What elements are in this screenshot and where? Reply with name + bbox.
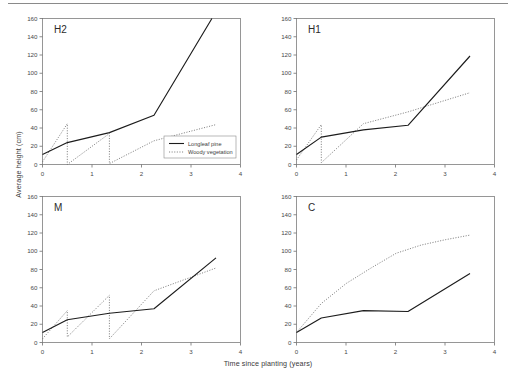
y-tick-label: 120 bbox=[281, 229, 292, 236]
x-tick-label: 2 bbox=[140, 170, 144, 177]
panel-c-y-ticks: 02040608010012014016001234 bbox=[281, 193, 497, 355]
y-tick-label: 100 bbox=[27, 247, 38, 254]
legend-label-longleaf-pine: Longleaf pine bbox=[188, 141, 222, 147]
panel-h1-series-pine bbox=[297, 56, 471, 155]
y-tick-label: 140 bbox=[281, 211, 292, 218]
panel-h1-y-ticks: 02040608010012014016001234 bbox=[281, 15, 497, 177]
x-tick-label: 3 bbox=[443, 170, 447, 177]
y-tick-label: 60 bbox=[285, 284, 292, 291]
x-tick-label: 2 bbox=[394, 348, 398, 355]
longleaf-pine-line-h1 bbox=[297, 56, 471, 155]
y-tick-label: 160 bbox=[27, 15, 38, 22]
longleaf-pine-line-m bbox=[43, 258, 217, 333]
x-tick-label: 3 bbox=[189, 170, 193, 177]
panel-c: 02040608010012014016001234 C bbox=[272, 188, 512, 370]
panel-m-frame bbox=[43, 197, 241, 343]
panel-h2: 02040608010012014016001234 Longleaf pine… bbox=[18, 10, 258, 192]
y-tick-label: 160 bbox=[281, 193, 292, 200]
x-tick-label: 2 bbox=[394, 170, 398, 177]
y-tick-label: 160 bbox=[27, 193, 38, 200]
x-tick-label: 3 bbox=[443, 348, 447, 355]
y-tick-label: 80 bbox=[285, 266, 292, 273]
y-tick-label: 40 bbox=[31, 124, 38, 131]
panel-h2-legend: Longleaf pine Woody vegetation bbox=[164, 136, 236, 158]
x-tick-label: 0 bbox=[41, 348, 45, 355]
y-tick-label: 0 bbox=[288, 161, 292, 168]
panel-h2-title: H2 bbox=[54, 24, 67, 35]
y-tick-label: 80 bbox=[285, 88, 292, 95]
x-tick-label: 3 bbox=[189, 348, 193, 355]
y-tick-label: 20 bbox=[31, 142, 38, 149]
x-tick-label: 0 bbox=[295, 348, 299, 355]
x-tick-label: 2 bbox=[140, 348, 144, 355]
panel-c-frame bbox=[297, 197, 495, 343]
x-tick-label: 1 bbox=[344, 348, 348, 355]
panel-c-title: C bbox=[308, 202, 315, 213]
y-tick-label: 20 bbox=[285, 142, 292, 149]
x-tick-label: 1 bbox=[90, 170, 94, 177]
longleaf-pine-line-h2 bbox=[43, 19, 212, 155]
panel-h1: 02040608010012014016001234 H1 bbox=[272, 10, 512, 192]
top-rule-divider bbox=[8, 3, 508, 4]
y-tick-label: 60 bbox=[31, 106, 38, 113]
x-tick-label: 4 bbox=[493, 170, 497, 177]
y-tick-label: 100 bbox=[281, 69, 292, 76]
y-tick-label: 80 bbox=[31, 88, 38, 95]
y-tick-label: 60 bbox=[31, 284, 38, 291]
x-tick-label: 4 bbox=[239, 170, 243, 177]
figure-root: Average height (cm) Time since planting … bbox=[0, 0, 516, 377]
panel-m-title: M bbox=[54, 202, 62, 213]
x-tick-label: 1 bbox=[90, 348, 94, 355]
x-tick-label: 0 bbox=[41, 170, 45, 177]
y-tick-label: 40 bbox=[285, 302, 292, 309]
y-tick-label: 20 bbox=[31, 320, 38, 327]
y-tick-label: 0 bbox=[288, 339, 292, 346]
y-tick-label: 60 bbox=[285, 106, 292, 113]
x-tick-label: 4 bbox=[493, 348, 497, 355]
y-tick-label: 0 bbox=[34, 339, 38, 346]
y-tick-label: 100 bbox=[281, 247, 292, 254]
y-tick-label: 80 bbox=[31, 266, 38, 273]
y-tick-label: 120 bbox=[281, 51, 292, 58]
panel-h2-series-pine bbox=[43, 19, 212, 155]
y-tick-label: 40 bbox=[31, 302, 38, 309]
y-tick-label: 140 bbox=[27, 33, 38, 40]
y-tick-label: 40 bbox=[285, 124, 292, 131]
y-tick-label: 120 bbox=[27, 229, 38, 236]
y-tick-label: 140 bbox=[27, 211, 38, 218]
x-tick-label: 4 bbox=[239, 348, 243, 355]
y-tick-label: 100 bbox=[27, 69, 38, 76]
x-tick-label: 0 bbox=[295, 170, 299, 177]
panel-m-y-ticks: 02040608010012014016001234 bbox=[27, 193, 243, 355]
legend-label-woody-vegetation: Woody vegetation bbox=[188, 149, 233, 155]
panel-h1-title: H1 bbox=[308, 24, 321, 35]
panel-m-series-pine bbox=[43, 258, 217, 333]
y-tick-label: 140 bbox=[281, 33, 292, 40]
y-tick-label: 0 bbox=[34, 161, 38, 168]
y-tick-label: 20 bbox=[285, 320, 292, 327]
panel-h1-frame bbox=[297, 19, 495, 165]
y-tick-label: 160 bbox=[281, 15, 292, 22]
y-tick-label: 120 bbox=[27, 51, 38, 58]
panel-m: 02040608010012014016001234 M bbox=[18, 188, 258, 370]
x-tick-label: 1 bbox=[344, 170, 348, 177]
